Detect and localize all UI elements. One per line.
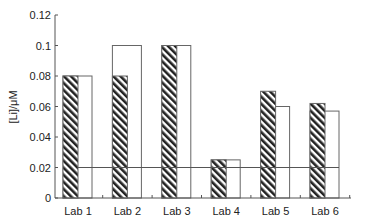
axes [55,15,351,198]
bars-group [63,46,339,199]
y-tick-label: 0.12 [30,9,51,21]
x-tick-label: Lab 4 [212,205,240,217]
x-tick-label: Lab 3 [163,205,191,217]
y-axis-ticks: 00.020.040.060.080.10.12 [30,9,58,204]
bar-hatched [63,76,78,198]
bar-hatched [162,46,177,199]
y-tick-label: 0.1 [36,40,51,52]
bar-hatched [261,91,276,198]
bar-hatched [112,76,127,198]
y-tick-label: 0.04 [30,131,51,143]
x-tick-label: Lab 6 [311,205,339,217]
y-tick-label: 0.06 [30,101,51,113]
bar-hatched [211,160,226,198]
y-axis-label: [Li]/μM [7,90,19,123]
x-tick-label: Lab 1 [64,205,92,217]
y-tick-label: 0.08 [30,70,51,82]
bar-hatched [310,103,325,198]
x-tick-label: Lab 5 [262,205,290,217]
y-tick-label: 0 [45,192,51,204]
x-tick-label: Lab 2 [114,205,142,217]
y-tick-label: 0.02 [30,162,51,174]
bar-chart: 00.020.040.060.080.10.12 Lab 1Lab 2Lab 3… [0,0,365,224]
